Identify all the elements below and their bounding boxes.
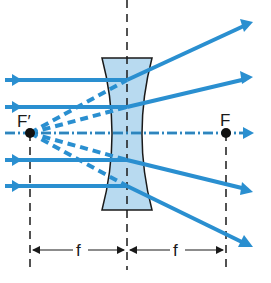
diagram-svg: F′ F f f [0,0,271,283]
focal-length-label-left: f [76,241,81,260]
real-focus-label: F [220,111,230,130]
diverging-lens-diagram: F′ F f f [0,0,271,283]
focal-length-label-right: f [173,241,178,260]
optical-axis-arrowhead [243,127,254,139]
virtual-focus-label: F′ [17,112,31,131]
